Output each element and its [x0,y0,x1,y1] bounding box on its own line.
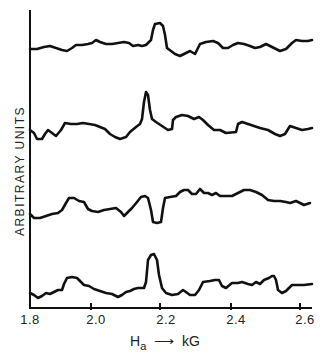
trace-1 [30,23,312,56]
x-tick-label: 1.8 [20,312,40,327]
trace-3 [30,189,310,223]
x-tick-label: 2.4 [226,312,246,327]
x-axis-label-unit: kG [182,333,200,349]
trace-2 [30,92,312,139]
chart-canvas [0,0,323,358]
x-tick-label: 2.6 [295,312,315,327]
x-tick-label: 2.2 [156,312,176,327]
arrow-right-icon: ⟶ [154,333,174,349]
x-axis-label: Ha ⟶ kG [130,333,200,352]
trace-4 [30,254,312,298]
x-tick-label: 2.0 [86,312,106,327]
x-axis-label-subscript: a [140,340,146,352]
x-axis-label-symbol: H [130,333,140,349]
y-axis-label: ARBITRARY UNITS [13,81,27,261]
